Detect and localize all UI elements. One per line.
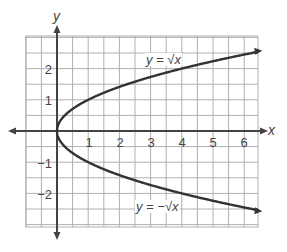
x-tick-6: 6 — [240, 136, 247, 149]
y-tick-1: 1 — [32, 94, 52, 107]
lower-curve-label: y = −√x — [135, 200, 180, 213]
x-axis-label: x — [268, 123, 275, 137]
y-axis-label: y — [53, 9, 60, 23]
upper-curve-label: y = √x — [145, 53, 182, 66]
y-tick-minus-1: −1 — [32, 157, 52, 170]
graph-canvas — [0, 0, 287, 252]
y-tick-2: 2 — [32, 63, 52, 76]
y-tick-minus-2: −2 — [32, 188, 52, 201]
x-tick-2: 2 — [116, 136, 123, 149]
x-tick-3: 3 — [147, 136, 154, 149]
x-tick-4: 4 — [178, 136, 185, 149]
x-tick-5: 5 — [209, 136, 216, 149]
x-tick-1: 1 — [85, 136, 92, 149]
